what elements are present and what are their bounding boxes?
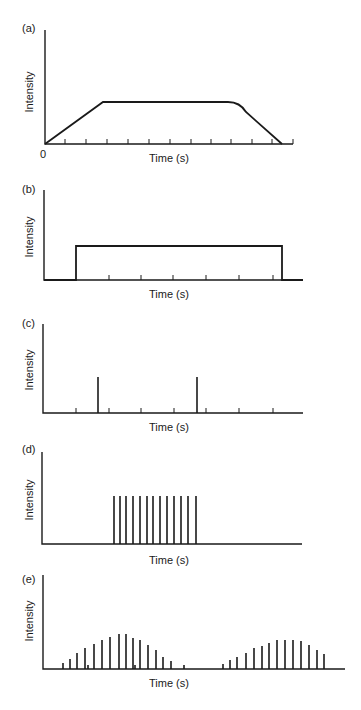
panel-d-pulse-train: (d)IntensityTime (s) bbox=[22, 443, 302, 566]
panel-label: (b) bbox=[22, 183, 35, 195]
axes bbox=[45, 30, 293, 144]
figure: (a)IntensityTime (s)0 (b)IntensityTime (… bbox=[0, 0, 361, 710]
y-axis-title: Intensity bbox=[23, 216, 35, 257]
panel-label: (e) bbox=[22, 573, 35, 585]
x-axis-title: Time (s) bbox=[149, 677, 189, 689]
y-axis-title: Intensity bbox=[23, 349, 35, 390]
origin-label: 0 bbox=[40, 148, 46, 160]
axes bbox=[43, 575, 345, 669]
panel-label: (a) bbox=[22, 22, 35, 34]
y-axis-title: Intensity bbox=[23, 71, 35, 112]
panel-e-modulated-pulse-bursts: (e)IntensityTime (s) bbox=[22, 573, 345, 689]
x-axis-title: Time (s) bbox=[149, 421, 189, 433]
panel-label: (d) bbox=[22, 443, 35, 455]
panel-label: (c) bbox=[22, 317, 35, 329]
panel-b-rectangular-pulse: (b)IntensityTime (s) bbox=[22, 183, 303, 300]
panel-a-ramp-plateau: (a)IntensityTime (s)0 bbox=[22, 22, 293, 164]
x-axis-title: Time (s) bbox=[149, 152, 189, 164]
axes bbox=[44, 190, 303, 280]
intensity-trace bbox=[44, 246, 303, 280]
intensity-trace bbox=[45, 102, 282, 144]
x-axis-title: Time (s) bbox=[149, 554, 189, 566]
axes bbox=[42, 452, 302, 544]
y-axis-title: Intensity bbox=[23, 479, 35, 520]
y-axis-title: Intensity bbox=[23, 600, 35, 641]
panel-c-two-pulses: (c)IntensityTime (s) bbox=[22, 317, 303, 433]
x-axis-title: Time (s) bbox=[149, 288, 189, 300]
axes bbox=[43, 324, 303, 413]
